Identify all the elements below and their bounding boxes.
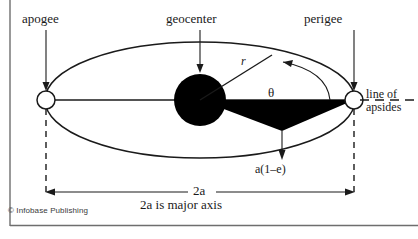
orbit-diagram-figure: apogee geocenter perigee r θ line of aps… xyxy=(0,0,418,239)
theta-arc xyxy=(283,62,330,100)
perigee-distance-arrowhead xyxy=(279,150,286,160)
geocenter-callout-arrowhead xyxy=(197,64,204,73)
line-of-apsides-label-line2: apsides xyxy=(366,101,401,114)
major-axis-caption: 2a is major axis xyxy=(140,198,222,212)
line-of-apsides-label-line1: line of xyxy=(366,88,397,101)
publisher-credit: © Infobase Publishing xyxy=(8,207,88,215)
theta-label: θ xyxy=(268,86,274,100)
geocenter-label: geocenter xyxy=(166,12,217,26)
theta-arc-arrowhead xyxy=(283,60,293,67)
perigee-label: perigee xyxy=(304,12,342,26)
apogee-label: apogee xyxy=(22,12,59,26)
perigee-distance-label: a(1–e) xyxy=(255,163,286,176)
radius-label: r xyxy=(241,55,246,68)
apogee-marker xyxy=(37,91,55,109)
major-axis-symbol-label: 2a xyxy=(193,184,205,198)
